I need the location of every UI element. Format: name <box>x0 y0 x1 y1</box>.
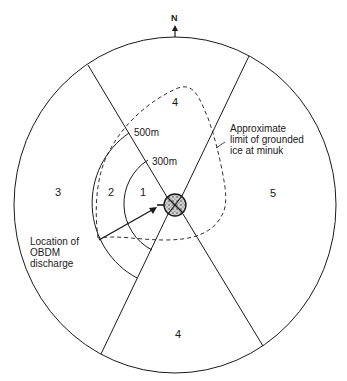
zone-label-left: 3 <box>55 187 61 198</box>
discharge-annotation: Location of OBDM discharge <box>30 236 79 269</box>
arc-500m <box>92 133 137 278</box>
ice-limit-leader <box>216 142 225 148</box>
north-arrow-icon <box>172 25 178 37</box>
north-label: N <box>171 13 178 24</box>
zone-diagram <box>0 0 347 381</box>
arc-300m <box>124 160 152 250</box>
discharge-site-icon <box>164 194 186 216</box>
zone-label-ring-inner: 1 <box>140 187 146 198</box>
zone-label-right: 5 <box>270 188 276 199</box>
distance-label-300m: 300m <box>152 156 177 167</box>
discharge-arrow <box>99 205 165 240</box>
zone-label-ring-outer: 2 <box>108 187 114 198</box>
zone-label-bottom: 4 <box>175 329 181 340</box>
ice-limit-annotation: Approximate limit of grounded ice at min… <box>230 123 304 156</box>
zone-label-top: 4 <box>172 97 178 108</box>
distance-label-500m: 500m <box>134 127 159 138</box>
